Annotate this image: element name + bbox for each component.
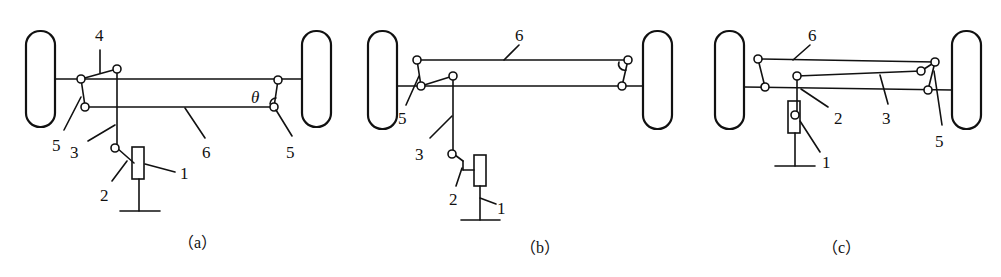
leader-line bbox=[934, 71, 942, 125]
label-3: 3 bbox=[415, 145, 424, 164]
label-theta: θ bbox=[251, 88, 259, 107]
tie-rod bbox=[758, 59, 935, 62]
joint bbox=[761, 83, 769, 91]
leader-line bbox=[456, 168, 462, 186]
leader-line bbox=[276, 110, 292, 136]
right-wheel bbox=[643, 31, 672, 129]
leader-line bbox=[88, 125, 115, 141]
panel-c: 6 2 3 5 1 （c） bbox=[715, 26, 981, 256]
caption-c: （c） bbox=[822, 239, 861, 256]
label-5-left: 5 bbox=[52, 136, 61, 155]
joint bbox=[931, 58, 939, 66]
leader-line bbox=[800, 121, 820, 152]
label-1: 1 bbox=[822, 153, 831, 172]
joint bbox=[791, 111, 799, 119]
leader-line bbox=[64, 97, 81, 130]
joint bbox=[793, 72, 801, 80]
joint bbox=[624, 56, 632, 64]
label-2: 2 bbox=[100, 186, 109, 205]
label-5-right: 5 bbox=[286, 143, 295, 162]
joint bbox=[924, 86, 932, 94]
leader-line bbox=[430, 116, 452, 138]
joint bbox=[917, 67, 925, 75]
caption-a: （a） bbox=[178, 234, 217, 251]
joint bbox=[618, 82, 626, 90]
leader-line bbox=[112, 161, 127, 181]
label-6: 6 bbox=[808, 26, 817, 45]
left-wheel bbox=[715, 31, 744, 129]
label-6: 6 bbox=[202, 143, 211, 162]
label-3: 3 bbox=[882, 109, 891, 128]
label-1: 1 bbox=[180, 164, 189, 183]
steering-linkage-figure: 4 5 3 6 5 2 1 θ （a） bbox=[0, 0, 1001, 277]
steering-gear-box bbox=[474, 155, 486, 186]
label-1: 1 bbox=[497, 199, 506, 218]
joint bbox=[449, 72, 457, 80]
label-6: 6 bbox=[515, 26, 524, 45]
right-wheel bbox=[302, 31, 331, 127]
joint bbox=[417, 82, 425, 90]
label-2: 2 bbox=[449, 190, 458, 209]
leader-line bbox=[185, 108, 205, 138]
leader-line bbox=[145, 164, 175, 172]
joint bbox=[81, 103, 89, 111]
leader-line bbox=[504, 45, 519, 60]
joint bbox=[77, 75, 85, 83]
label-3: 3 bbox=[70, 143, 79, 162]
joint bbox=[274, 76, 282, 84]
front-axle bbox=[744, 87, 952, 90]
leader-line bbox=[480, 198, 496, 204]
joint bbox=[413, 56, 421, 64]
left-wheel bbox=[368, 31, 397, 129]
label-4: 4 bbox=[95, 26, 104, 45]
right-wheel bbox=[952, 31, 981, 129]
panel-a: 4 5 3 6 5 2 1 θ （a） bbox=[26, 26, 331, 251]
leader-line bbox=[793, 45, 810, 60]
label-5: 5 bbox=[935, 132, 944, 151]
panel-b: 6 5 3 2 1 （b） bbox=[368, 26, 672, 256]
left-wheel bbox=[26, 31, 55, 127]
leader-line bbox=[801, 89, 828, 107]
label-5: 5 bbox=[398, 109, 407, 128]
joint bbox=[113, 65, 121, 73]
caption-b: （b） bbox=[520, 239, 560, 256]
steering-arm bbox=[421, 76, 453, 86]
joint bbox=[111, 144, 119, 152]
leader-line bbox=[406, 76, 419, 105]
drag-link bbox=[797, 71, 921, 76]
label-2: 2 bbox=[834, 109, 843, 128]
joint bbox=[448, 150, 456, 158]
steering-arm bbox=[81, 69, 117, 79]
joint bbox=[754, 55, 762, 63]
